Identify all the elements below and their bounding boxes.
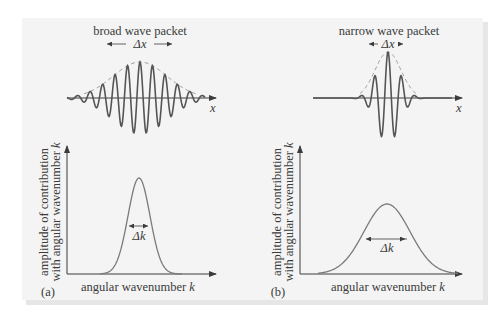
narrow-packet-title: narrow wave packet: [339, 24, 440, 38]
panel-tag-b: (b): [271, 285, 286, 299]
y-axis-label: amplitude of contribution with angular w…: [37, 142, 63, 282]
x-axis-label: angular wavenumber k: [331, 280, 445, 294]
svg-text:with angular wavenumber k: with angular wavenumber k: [49, 142, 63, 282]
y-axis-label: amplitude of contribution with angular w…: [270, 142, 296, 282]
figure-panel: [22, 18, 488, 305]
delta-x-label: Δx: [381, 37, 395, 51]
delta-k-label: Δk: [132, 229, 146, 243]
svg-text:with angular wavenumber k: with angular wavenumber k: [282, 142, 296, 282]
delta-x-label: Δx: [133, 37, 147, 51]
delta-k-label: Δk: [380, 241, 394, 255]
x-axis-label: angular wavenumber k: [81, 280, 195, 294]
x-axis-symbol: x: [209, 101, 216, 115]
panel-tag-a: (a): [41, 285, 55, 299]
broad-packet-title: broad wave packet: [93, 24, 187, 38]
wave-packet-figure: broad wave packet Δx x Δk angular wavenu…: [0, 0, 504, 317]
x-axis-symbol: x: [455, 101, 462, 115]
